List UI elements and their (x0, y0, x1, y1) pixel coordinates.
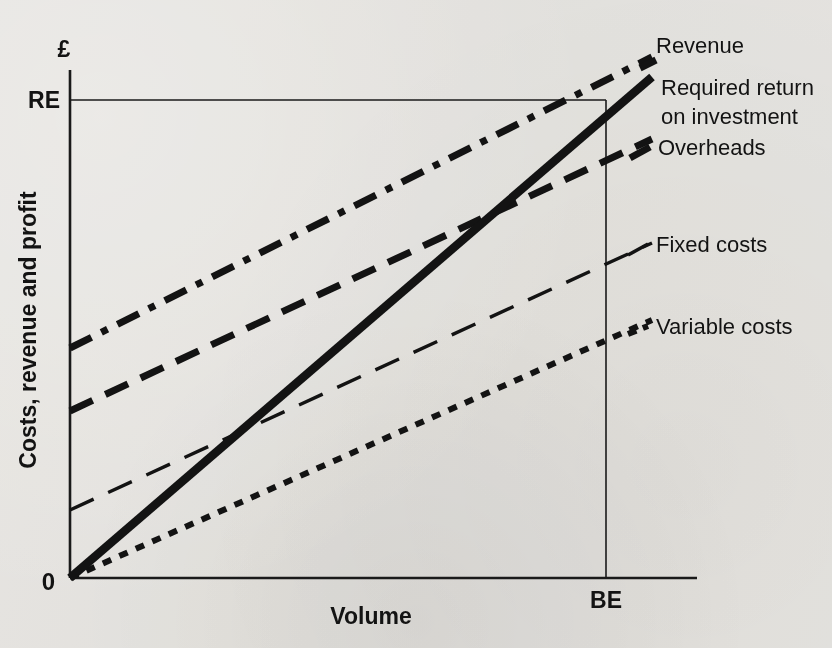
series-label-group: Revenue Required return on investment Ov… (656, 33, 814, 339)
series-line-variable-costs (70, 320, 652, 578)
series-line-revenue (70, 77, 652, 578)
series-label-required-return-line1: Required return (661, 75, 814, 100)
origin-label: 0 (42, 568, 55, 595)
chart-page: £ RE 0 BE Volume Costs, revenue and prof… (0, 0, 832, 648)
series-line-overheads (70, 139, 652, 411)
break-even-chart: £ RE 0 BE Volume Costs, revenue and prof… (0, 0, 832, 648)
series-label-variable-costs: Variable costs (656, 314, 793, 339)
y-tick-label-re: RE (28, 87, 60, 113)
series-label-revenue: Revenue (656, 33, 744, 58)
series-line-fixed-costs (70, 243, 652, 510)
series-label-overheads: Overheads (658, 135, 766, 160)
series-group (70, 57, 652, 578)
leader-stroke-fixed-costs (628, 244, 648, 255)
x-tick-label-be: BE (590, 587, 622, 613)
series-label-required-return-line2: on investment (661, 104, 798, 129)
y-axis-unit-symbol: £ (58, 36, 71, 62)
x-axis-title: Volume (330, 603, 411, 629)
series-leader-group (628, 60, 656, 334)
y-axis-title: Costs, revenue and profit (15, 191, 41, 469)
leader-stroke-overheads (630, 147, 650, 158)
series-label-fixed-costs: Fixed costs (656, 232, 767, 257)
